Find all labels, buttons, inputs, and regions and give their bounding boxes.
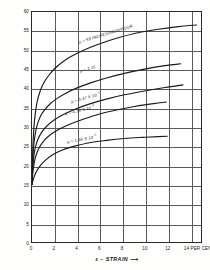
x-axis-title-text: ε – STRAIN (95, 256, 128, 262)
y-axis-tick-label: 5 (7, 221, 29, 226)
x-axis-tick-label: 0 (30, 246, 33, 251)
x-axis-tick-label: 6 (98, 246, 101, 251)
y-axis-tick-label: 15 (7, 183, 29, 188)
y-axis-tick-label: 0 (7, 241, 29, 246)
x-axis-tick-label: 10 (142, 246, 147, 251)
y-axis-tick-label: 60 (7, 9, 29, 14)
y-axis-tick-label: 45 (7, 67, 29, 72)
curve-mu-2.15 (32, 64, 181, 185)
annotation-exponent: −3 (90, 104, 94, 109)
x-axis-tick-label: 8 (121, 246, 124, 251)
annotation-exponent: −1 (96, 91, 101, 96)
y-axis-tick-label: 35 (7, 105, 29, 110)
y-axis-tick-label: 25 (7, 144, 29, 149)
y-axis-tick-label: 50 (7, 47, 29, 52)
y-axis-tick-label: 55 (7, 28, 29, 33)
x-axis-title: ε – STRAIN ⟶ (31, 256, 202, 262)
curve-mu-1.66e-5 (32, 136, 167, 184)
y-axis-tick-label: 20 (7, 163, 29, 168)
curve-mu-4.28e-3 (32, 102, 166, 184)
x-axis-tick-label: 2 (52, 246, 55, 251)
y-axis-tick-label: 40 (7, 86, 29, 91)
curves-svg (32, 12, 201, 242)
x-axis-arrow-icon: ⟶ (130, 256, 138, 262)
y-axis-tick-label: 10 (7, 202, 29, 207)
x-axis-tick-label: 12 (165, 246, 170, 251)
x-axis-tick-label: 4 (75, 246, 78, 251)
x-axis-tick-label: 14 PER CENT (184, 246, 210, 251)
y-axis-tick-label: 30 (7, 125, 29, 130)
curve-mu-59 (32, 25, 196, 184)
plot-area (31, 11, 202, 243)
chart-figure: σ – TRUE STRESS IN THOUSAND LBS/INCH2⟶ ε… (0, 0, 210, 270)
curves-layer (32, 12, 201, 242)
